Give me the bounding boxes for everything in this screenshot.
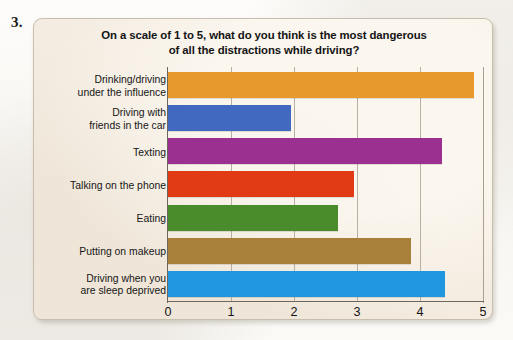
- x-axis-line: [167, 301, 484, 302]
- plot-right-border: [483, 67, 484, 303]
- category-label: Driving when youare sleep deprived: [44, 273, 166, 298]
- x-tick-5: 5: [471, 305, 493, 319]
- bar: [168, 205, 338, 231]
- category-label-line: friends in the car: [44, 120, 166, 132]
- category-label-line: Talking on the phone: [44, 180, 166, 192]
- category-label: Eating: [44, 213, 166, 225]
- bar: [168, 105, 291, 131]
- category-label-line: under the influence: [44, 87, 166, 99]
- bar-band: [168, 69, 483, 102]
- x-tick-0: 0: [156, 305, 180, 319]
- chart-card: On a scale of 1 to 5, what do you think …: [33, 18, 493, 320]
- chart-title-line-2: of all the distractions while driving?: [48, 43, 480, 58]
- chart-title-line-1: On a scale of 1 to 5, what do you think …: [48, 28, 480, 43]
- bar-band: [168, 102, 483, 135]
- category-label: Driving withfriends in the car: [44, 107, 166, 132]
- bar-band: [168, 168, 483, 201]
- category-label-line: Putting on makeup: [44, 246, 166, 258]
- bar-band: [168, 268, 483, 301]
- category-label-line: Eating: [44, 213, 166, 225]
- x-tick-4: 4: [408, 305, 432, 319]
- category-label-line: Drinking/driving: [44, 74, 166, 86]
- category-label: Putting on makeup: [44, 246, 166, 258]
- category-label: Drinking/drivingunder the influence: [44, 74, 166, 99]
- category-label-line: Texting: [44, 147, 166, 159]
- category-axis-labels: Drinking/drivingunder the influenceDrivi…: [44, 69, 166, 301]
- bar-series: [168, 69, 483, 301]
- x-tick-1: 1: [219, 305, 243, 319]
- bar-band: [168, 135, 483, 168]
- x-tick-2: 2: [282, 305, 306, 319]
- category-label: Texting: [44, 147, 166, 159]
- category-label-line: are sleep deprived: [44, 285, 166, 297]
- bar: [168, 72, 474, 98]
- chart-title: On a scale of 1 to 5, what do you think …: [48, 28, 480, 57]
- plot-area: [168, 69, 483, 301]
- bar-band: [168, 202, 483, 235]
- bar: [168, 138, 442, 164]
- category-label-line: Driving with: [44, 107, 166, 119]
- question-number: 3.: [11, 14, 23, 31]
- x-tick-3: 3: [345, 305, 369, 319]
- x-axis-tick-labels: 012345: [168, 303, 483, 320]
- bar: [168, 271, 445, 297]
- category-label-line: Driving when you: [44, 273, 166, 285]
- bar: [168, 238, 411, 264]
- category-label: Talking on the phone: [44, 180, 166, 192]
- bar: [168, 171, 354, 197]
- bar-band: [168, 235, 483, 268]
